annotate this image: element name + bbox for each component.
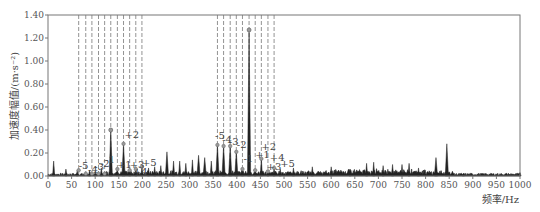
spectrum-peak [172,161,174,176]
spectrum-peak [366,163,368,176]
center-frequency-marker [247,28,251,32]
x-tick-label: 950 [488,180,505,190]
sideband-markers: -5-4-3-2-1+1+2+3+4+5-5-4-3-2-1+1+2+3+4+5 [77,28,295,177]
sideband-order-label: +5 [142,157,157,168]
spectrum-chart: -5-4-3-2-1+1+2+3+4+5-5-4-3-2-1+1+2+3+4+5… [0,0,540,212]
spectrum-peak [154,167,156,176]
sideband-marker [241,167,245,171]
y-tick-label: 1.20 [24,33,44,43]
spectrum-peak [165,152,168,176]
spectrum-peak [160,166,162,176]
x-tick-label: 650 [346,180,363,190]
x-axis-label: 频率/Hz [482,193,519,205]
y-tick-label: 0.80 [24,79,44,89]
sideband-order-label: -1 [243,153,253,164]
spectrum-peak [434,158,437,176]
spectrum-peak [179,161,181,176]
sideband-order-label: -5 [79,160,89,171]
sideband-marker [216,143,220,147]
sideband-order-label: -1 [105,154,115,165]
sideband-order-label: +2 [261,141,276,152]
x-tick-label: 450 [252,180,269,190]
spectrum-peak [235,152,238,176]
x-tick-label: 300 [181,180,198,190]
x-tick-label: 0 [45,180,51,190]
y-tick-label: 1.00 [24,56,44,66]
spectrum-peak [210,161,212,176]
sideband-order-label: -2 [237,139,247,150]
y-tick-label: 0.40 [24,125,44,135]
center-frequency-marker [109,128,113,132]
y-tick-label: 0.00 [24,171,44,181]
x-tick-label: 600 [323,180,340,190]
spectrum-peak [408,163,410,176]
spectrum-peak [147,168,149,176]
x-tick-label: 150 [110,180,127,190]
x-tick-label: 50 [66,180,78,190]
sideband-dashed-lines [79,15,274,176]
spectrum-peak [349,169,351,176]
spectrum-peak [417,168,419,176]
spectrum-peak [401,165,403,177]
spectrum-peak [311,167,313,176]
spectrum-peak [373,162,375,176]
sideband-marker [235,150,239,154]
x-tick-label: 500 [275,180,292,190]
x-tick-label: 200 [134,180,151,190]
x-tick-label: 1000 [509,180,532,190]
y-tick-label: 0.20 [24,148,44,158]
x-tick-label: 250 [157,180,174,190]
spectrum-peak [216,145,219,176]
x-tick-label: 800 [417,180,434,190]
spectrum-peak [382,166,384,176]
x-tick-label: 400 [228,180,245,190]
spectrum-peak [222,146,225,176]
sideband-marker [222,144,226,148]
spectrum-peak [391,165,393,177]
spectrum-peak [229,146,232,176]
x-tick-label: 100 [87,180,104,190]
sideband-marker [84,172,88,176]
sideband-order-label: +5 [280,158,295,169]
x-axis-ticks: 0501001502002503003504004505005506006507… [45,176,532,190]
x-tick-label: 850 [441,180,458,190]
spectrum-peak [53,161,55,176]
sideband-order-label: +2 [124,129,139,140]
spectrum-peak [65,169,67,176]
y-axis-ticks: 0.000.200.400.600.801.001.201.40 [24,10,48,181]
sideband-marker [253,168,257,172]
spectrum-peak [109,130,112,176]
x-tick-label: 750 [393,180,410,190]
x-tick-label: 900 [464,180,481,190]
spectrum-peak [203,158,206,176]
spectrum-peak [260,159,262,176]
spectrum-peak [445,144,448,176]
y-tick-label: 0.60 [24,102,44,112]
spectrum-peak [197,155,200,176]
sideband-marker [103,172,107,176]
y-axis-label: 加速度幅值/(m·s⁻²) [8,52,20,140]
spectrum-peak [185,163,187,176]
spectrum-peak [191,160,193,176]
sideband-marker [122,142,126,146]
spectrum-peak [292,168,294,176]
spectrum-peak [330,167,332,176]
x-tick-label: 700 [370,180,387,190]
x-tick-label: 350 [205,180,222,190]
x-tick-label: 550 [299,180,316,190]
y-tick-label: 1.40 [24,10,44,20]
